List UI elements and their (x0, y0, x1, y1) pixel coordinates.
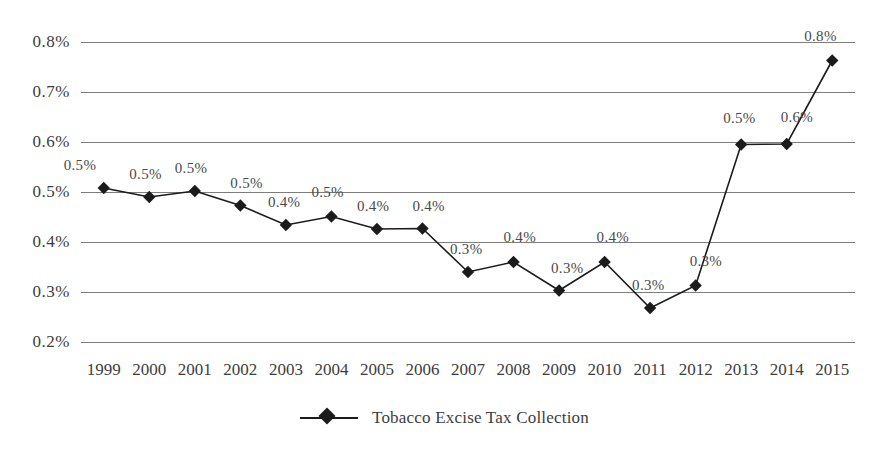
y-tick-label: 0.5% (0, 183, 70, 200)
data-point-label: 0.3% (690, 254, 722, 269)
line-chart: 0.8%0.7%0.6%0.5%0.4%0.3%0.2% 19992000200… (0, 0, 889, 456)
data-point-label: 0.5% (175, 161, 207, 176)
data-point-label: 0.4% (268, 195, 300, 210)
y-tick-label: 0.4% (0, 233, 70, 250)
data-point-label: 0.8% (804, 29, 836, 44)
gridline (81, 342, 855, 343)
data-point-label: 0.5% (723, 111, 755, 126)
data-point-label: 0.3% (450, 242, 482, 257)
data-point-marker (143, 191, 155, 203)
data-point-label: 0.5% (230, 176, 262, 191)
legend-marker-icon (300, 409, 358, 427)
data-point-label: 0.4% (412, 199, 444, 214)
data-point-marker (189, 185, 201, 197)
x-tick-label: 2015 (805, 360, 859, 379)
y-tick-label: 0.2% (0, 333, 70, 350)
data-point-marker (98, 182, 110, 194)
data-point-marker (735, 138, 747, 150)
data-point-label: 0.5% (129, 167, 161, 182)
data-point-label: 0.4% (504, 230, 536, 245)
data-point-marker (325, 210, 337, 222)
data-point-label: 0.4% (597, 230, 629, 245)
y-tick-label: 0.6% (0, 133, 70, 150)
data-point-marker (553, 284, 565, 296)
y-tick-label: 0.8% (0, 33, 70, 50)
series-line-tobacco-excise-tax-collection (81, 42, 855, 342)
data-point-marker (826, 54, 838, 66)
data-point-label: 0.4% (357, 199, 389, 214)
data-point-label: 0.5% (311, 185, 343, 200)
data-point-marker (781, 138, 793, 150)
plot-area (81, 42, 855, 342)
y-tick-label: 0.7% (0, 83, 70, 100)
legend-item-tobacco-excise-tax-collection: Tobacco Excise Tax Collection (300, 408, 589, 428)
data-point-marker (689, 279, 701, 291)
data-point-label: 0.5% (64, 158, 96, 173)
data-point-marker (234, 199, 246, 211)
data-point-marker (280, 219, 292, 231)
data-point-label: 0.6% (781, 110, 813, 125)
legend-label: Tobacco Excise Tax Collection (372, 408, 589, 428)
data-point-marker (371, 223, 383, 235)
data-point-label: 0.3% (551, 261, 583, 276)
chart-legend: Tobacco Excise Tax Collection (0, 408, 889, 428)
data-point-label: 0.3% (632, 278, 664, 293)
y-tick-label: 0.3% (0, 283, 70, 300)
data-point-marker (507, 256, 519, 268)
